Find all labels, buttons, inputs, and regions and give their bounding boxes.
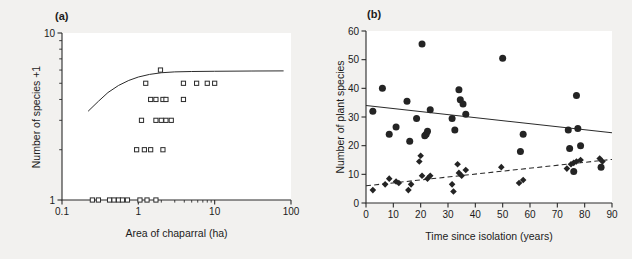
panel-a: (a) Number of species +1 Area of chaparr… [0, 0, 316, 259]
svg-text:1: 1 [136, 206, 142, 217]
panel-b-plot: 01020304050607080900102030405060 [316, 0, 632, 259]
svg-text:0.1: 0.1 [55, 206, 69, 217]
svg-text:40: 40 [470, 209, 482, 220]
svg-text:90: 90 [606, 209, 618, 220]
svg-text:80: 80 [579, 209, 591, 220]
svg-text:70: 70 [552, 209, 564, 220]
svg-text:10: 10 [44, 28, 56, 39]
svg-text:10: 10 [388, 209, 400, 220]
svg-text:30: 30 [348, 112, 360, 123]
svg-text:1: 1 [49, 195, 55, 206]
svg-text:60: 60 [348, 26, 360, 37]
svg-text:20: 20 [348, 140, 360, 151]
svg-text:40: 40 [348, 83, 360, 94]
svg-text:10: 10 [209, 206, 221, 217]
svg-text:0: 0 [363, 209, 369, 220]
svg-text:30: 30 [442, 209, 454, 220]
svg-text:60: 60 [524, 209, 536, 220]
svg-text:0: 0 [353, 198, 359, 209]
svg-text:20: 20 [415, 209, 427, 220]
svg-text:100: 100 [283, 206, 300, 217]
figure-container: (a) Number of species +1 Area of chaparr… [0, 0, 632, 259]
svg-text:10: 10 [348, 169, 360, 180]
panel-b: (b) Number of plant species Time since i… [316, 0, 632, 259]
svg-text:50: 50 [497, 209, 509, 220]
svg-text:50: 50 [348, 54, 360, 65]
panel-a-plot: 0.1110100110 [0, 0, 316, 259]
